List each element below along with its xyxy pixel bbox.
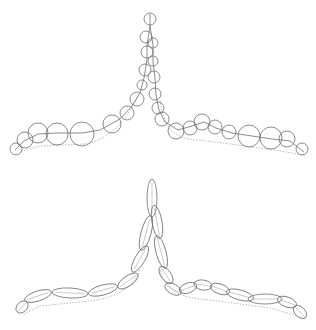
circle-primitive [120, 106, 134, 120]
circle-primitive [279, 131, 295, 147]
circle-primitive [296, 143, 308, 155]
circle-primitive [149, 88, 161, 100]
circle-primitive [238, 125, 260, 147]
ellipse-axis-line [155, 209, 160, 236]
dotted-outline [20, 96, 305, 155]
ellipse-axis-line [134, 249, 146, 270]
shape-skeleton-diagram [0, 0, 316, 330]
ellipse-axis-line [279, 299, 294, 304]
ellipse-axis-line [295, 307, 304, 316]
top-panel-circle-chain [10, 13, 308, 155]
circle-primitive [140, 31, 152, 43]
circle-primitive [46, 123, 68, 145]
ellipse-axis-line [181, 286, 195, 291]
circle-primitive [155, 112, 169, 126]
ellipse-axis-line [18, 303, 26, 311]
circle-primitive [103, 115, 121, 133]
ellipse-axis-line [142, 219, 149, 247]
ellipse-axis-line [229, 292, 251, 298]
ellipse-axis-line [196, 284, 210, 286]
circle-primitive [208, 120, 222, 134]
circle-primitive [28, 123, 48, 143]
circle-primitive [194, 114, 210, 130]
ellipse-group [14, 179, 310, 321]
bottom-panel-ellipse-chain [14, 179, 310, 321]
circle-primitive [70, 122, 94, 146]
ellipse-axis-line [212, 286, 227, 291]
ellipse-axis-line [56, 292, 85, 294]
ellipse-axis-line [167, 285, 179, 292]
skeleton-line-left [15, 14, 150, 150]
diagram-canvas [0, 0, 316, 330]
circle-group [10, 13, 308, 155]
